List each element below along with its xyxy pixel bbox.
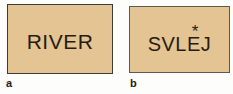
asterisk-mark: * xyxy=(192,23,199,40)
panel-a-label: a xyxy=(6,78,12,89)
panel-b-word-suffix: J xyxy=(201,33,212,55)
two-panel-figure: RIVER SVL*EJ a b xyxy=(0,0,233,94)
panel-b-label: b xyxy=(130,78,137,89)
panel-a-word: RIVER xyxy=(27,31,94,52)
panel-b-card: SVL*EJ xyxy=(129,6,230,73)
panel-b-word: SVL*EJ xyxy=(148,34,212,54)
panel-a-card: RIVER xyxy=(7,4,113,74)
panel-b-word-prefix: SVL xyxy=(148,33,187,55)
panel-b-starred-letter-wrap: *E xyxy=(187,34,201,54)
